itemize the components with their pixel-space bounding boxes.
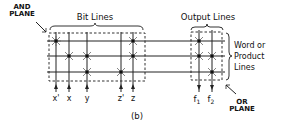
input-label: x' xyxy=(53,94,60,103)
output-lines-label: Output Lines xyxy=(181,12,236,22)
input-label: y xyxy=(85,94,90,103)
bit-lines-brace xyxy=(50,23,143,30)
or-plane-label-2: PLANE xyxy=(229,105,255,113)
and-plane-label-2: PLANE xyxy=(9,10,35,18)
word-lines-brace xyxy=(226,33,232,80)
down-arrow-icon xyxy=(197,85,214,90)
output-labels: f1 f2 xyxy=(194,94,215,105)
output-label: f2 xyxy=(208,94,215,105)
connection-dot xyxy=(51,36,61,46)
input-labels: x' x y z' z xyxy=(53,94,136,103)
input-label: z' xyxy=(118,94,124,103)
figure-caption: (b) xyxy=(131,111,143,121)
input-label: z xyxy=(131,94,135,103)
up-arrow-icon xyxy=(54,84,135,89)
output-label: f1 xyxy=(194,94,201,105)
input-label: x xyxy=(67,94,72,103)
bit-lines-label: Bit Lines xyxy=(77,12,114,22)
and-plane-arrow-icon xyxy=(36,22,46,32)
pla-diagram: AND PLANE Bit Lines Output Lines Word or… xyxy=(0,0,286,129)
and-plane-box xyxy=(49,33,145,81)
or-plane-arrow-icon xyxy=(226,85,236,94)
output-lines-brace xyxy=(191,24,223,30)
word-lines-label-3: Lines xyxy=(234,63,255,72)
word-lines-label: Word or xyxy=(234,41,266,50)
word-lines-label-2: Product xyxy=(234,52,264,61)
